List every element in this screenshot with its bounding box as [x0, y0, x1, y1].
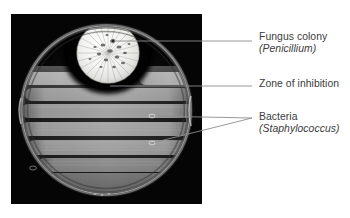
label-fungus-colony-scientific: (Penicillium) [259, 43, 327, 55]
label-zone-of-inhibition: Zone of inhibition [259, 78, 339, 90]
figure-root: Fungus colony (Penicillium) Zone of inhi… [0, 0, 350, 218]
label-bacteria: Bacteria (Staphylococcus) [259, 111, 340, 136]
petri-dish-photograph [11, 14, 202, 204]
label-bacteria-title: Bacteria [259, 111, 340, 123]
label-fungus-colony-title: Fungus colony [259, 31, 327, 43]
label-zone-of-inhibition-title: Zone of inhibition [259, 78, 339, 90]
petri-dish-image [11, 14, 202, 204]
petri-dish-rim [18, 22, 194, 198]
label-fungus-colony: Fungus colony (Penicillium) [259, 31, 327, 56]
label-bacteria-scientific: (Staphylococcus) [259, 123, 340, 135]
